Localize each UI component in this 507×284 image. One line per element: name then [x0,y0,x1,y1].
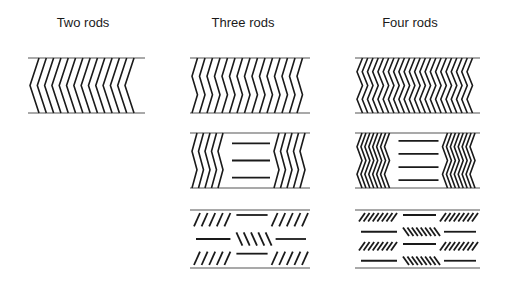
rod-slanted [209,252,215,265]
rod-slanted [236,232,242,245]
rod-slanted [302,252,308,265]
rod-zigzag [245,58,251,113]
rod-zigzag [207,58,213,113]
rod-zigzag [230,58,236,113]
rod-slanted [224,252,230,265]
rod-slanted [194,213,200,226]
rod-slanted [217,252,223,265]
rod-zigzag [192,58,198,113]
rod-slanted [279,252,285,265]
rod-zigzag [199,133,204,188]
rod-slanted [251,232,257,245]
rod-zigzag [357,133,362,188]
rod-zigzag [125,58,134,113]
rod-zigzag [294,133,299,188]
rod-slanted [202,213,208,226]
rod-zigzag [237,58,243,113]
rod-zigzag [252,58,258,113]
rod-slanted [294,252,300,265]
rod-slanted [272,252,278,265]
rod-zigzag [300,133,305,188]
rod-slanted [244,232,250,245]
rod-zigzag [200,58,206,113]
rod-zigzag [274,133,279,188]
rod-zigzag [297,58,303,113]
rod-zigzag [275,58,281,113]
rod-zigzag [281,133,286,188]
rod-zigzag [212,133,217,188]
rod-zigzag [222,58,228,113]
rod-slanted [294,213,300,226]
rod-zigzag [290,58,296,113]
rod-zigzag [215,58,221,113]
rod-packing-diagram [0,0,507,284]
rod-slanted [224,213,230,226]
rod-zigzag [443,133,448,188]
rod-slanted [279,213,285,226]
rod-slanted [202,252,208,265]
rod-slanted [302,213,308,226]
rod-slanted [287,213,293,226]
rod-slanted [258,232,264,245]
rod-slanted [194,252,200,265]
rod-slanted [217,213,223,226]
rod-zigzag [282,58,288,113]
rod-slanted [287,252,293,265]
rod-zigzag [205,133,210,188]
rod-slanted [272,213,278,226]
rod-zigzag [267,58,273,113]
rod-zigzag [192,133,197,188]
rod-zigzag [287,133,292,188]
rod-slanted [209,213,215,226]
rod-zigzag [218,133,223,188]
rod-zigzag [260,58,266,113]
rod-slanted [266,232,272,245]
rod-zigzag [357,58,363,113]
